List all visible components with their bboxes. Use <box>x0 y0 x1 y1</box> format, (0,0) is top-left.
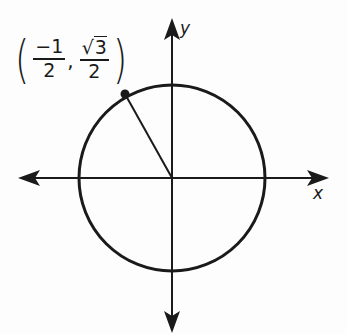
x-axis <box>18 170 329 186</box>
sqrt-expression: √3 <box>82 36 107 59</box>
x-numerator: −1 <box>33 36 65 60</box>
separator: , <box>67 49 73 73</box>
radicand: 3 <box>94 36 107 59</box>
unit-circle-diagram: y x ( −1 2 , √3 2 ) <box>0 0 347 334</box>
radical-icon: √ <box>82 37 94 59</box>
y-numerator: √3 <box>80 36 109 61</box>
point-coordinate-label: ( −1 2 , √3 2 ) <box>12 30 130 88</box>
y-denominator: 2 <box>88 61 100 83</box>
x-denominator: 2 <box>43 60 55 82</box>
y-axis <box>164 18 180 333</box>
radius-segment <box>125 94 172 178</box>
x-coordinate-fraction: −1 2 <box>33 36 65 82</box>
open-paren: ( <box>15 33 29 85</box>
close-paren: ) <box>113 33 127 85</box>
y-coordinate-fraction: √3 2 <box>80 36 109 83</box>
y-axis-label: y <box>180 18 190 38</box>
x-axis-label: x <box>313 183 323 203</box>
point-marker <box>121 90 130 99</box>
